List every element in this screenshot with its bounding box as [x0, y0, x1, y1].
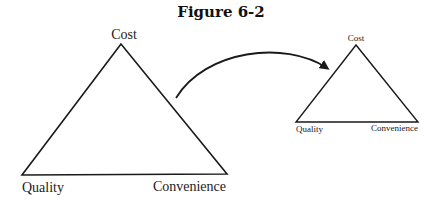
small-quality-label: Quality — [296, 124, 323, 134]
small-convenience-label: Convenience — [371, 123, 418, 133]
small-triangle: Cost Quality Convenience — [296, 33, 418, 134]
small-cost-label: Cost — [348, 33, 365, 43]
large-cost-label: Cost — [111, 27, 137, 42]
large-convenience-label: Convenience — [153, 179, 226, 194]
diagram-canvas: Cost Quality Convenience Cost Quality Co… — [0, 0, 442, 202]
large-quality-label: Quality — [22, 180, 64, 195]
large-triangle: Cost Quality Convenience — [22, 27, 227, 195]
transform-arrow — [176, 53, 327, 98]
